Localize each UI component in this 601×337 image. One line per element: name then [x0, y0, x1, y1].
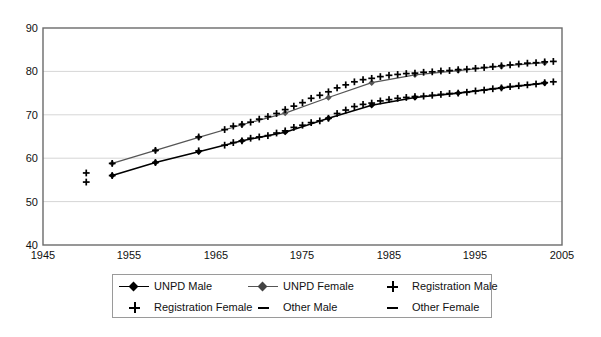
legend-row-2: Registration Female Other Male Other Fem… [113, 297, 491, 318]
legend-label-other-male: Other Male [283, 302, 337, 313]
x-tick-1945: 1945 [21, 250, 65, 261]
legend-item-unpd-male[interactable]: UNPD Male [117, 276, 212, 297]
plot-background [43, 28, 562, 245]
dash-marker-icon [246, 301, 280, 315]
legend-item-unpd-female[interactable]: UNPD Female [246, 276, 354, 297]
plus-marker-icon [375, 280, 409, 294]
y-tick-50: 50 [4, 197, 38, 208]
legend-item-registration-female[interactable]: Registration Female [117, 297, 252, 318]
legend-label-registration-male: Registration Male [412, 281, 498, 292]
legend-label-unpd-male: UNPD Male [154, 281, 212, 292]
x-tick-1985: 1985 [367, 250, 411, 261]
line-diamond-black-icon [117, 280, 151, 294]
legend-label-unpd-female: UNPD Female [283, 281, 354, 292]
y-tick-90: 90 [4, 23, 38, 34]
line-diamond-grey-icon [246, 280, 280, 294]
x-tick-1955: 1955 [107, 250, 151, 261]
y-tick-60: 60 [4, 153, 38, 164]
x-tick-1995: 1995 [453, 250, 497, 261]
legend-row-1: UNPD Male UNPD Female Registration Male [113, 276, 491, 297]
x-tick-1975: 1975 [280, 250, 324, 261]
legend-label-other-female: Other Female [412, 302, 479, 313]
x-tick-1965: 1965 [194, 250, 238, 261]
dash-marker-icon [375, 301, 409, 315]
x-tick-2005: 2005 [540, 250, 584, 261]
legend-item-other-female[interactable]: Other Female [375, 297, 479, 318]
y-tick-70: 70 [4, 110, 38, 121]
plus-marker-icon [117, 301, 151, 315]
legend-item-registration-male[interactable]: Registration Male [375, 276, 498, 297]
chart-legend: UNPD Male UNPD Female Registration Male … [112, 274, 492, 318]
legend-item-other-male[interactable]: Other Male [246, 297, 337, 318]
line-chart-figure: 90 80 70 60 50 40 1945 1955 1965 1975 19… [0, 0, 601, 337]
y-tick-80: 80 [4, 66, 38, 77]
legend-label-registration-female: Registration Female [154, 302, 252, 313]
